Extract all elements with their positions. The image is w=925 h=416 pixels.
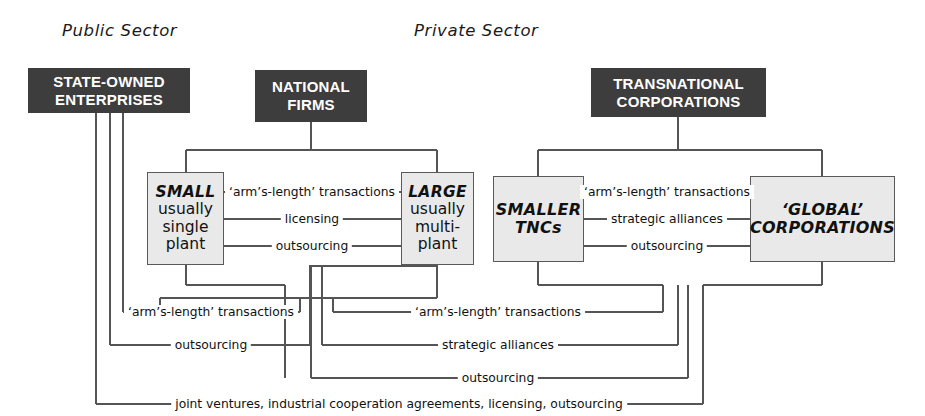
entity-box-large-firm[interactable]: LARGE usually multi- plant [401, 172, 474, 265]
sector-label-private: Private Sector [414, 21, 539, 40]
link-label-lower-left-outsourcing: outsourcing [171, 338, 251, 352]
link-label-small-large-arms-length: ‘arm’s-length’ transactions [225, 185, 399, 199]
link-label-tnc-global-strategic-alliances: strategic alliances [607, 212, 727, 226]
link-label-small-large-licensing: licensing [281, 212, 343, 226]
national-firms-line-2: FIRMS [272, 96, 350, 114]
small-firm-emphasis: SMALL [156, 184, 216, 201]
link-label-tnc-global-outsourcing: outsourcing [627, 239, 707, 253]
header-box-state-owned-enterprises[interactable]: STATE-OWNED ENTERPRISES [28, 68, 190, 113]
small-firm-line-3: plant [166, 236, 206, 253]
link-label-lower-right-strategic-alliances: strategic alliances [438, 338, 558, 352]
entity-box-small-firm[interactable]: SMALL usually single plant [147, 172, 224, 265]
diagram-canvas: Public Sector Private Sector STATE-OWNED… [0, 0, 925, 416]
smaller-tncs-line-1: SMALLER [496, 201, 582, 219]
state-owned-enterprises-line-2: ENTERPRISES [53, 91, 165, 109]
header-box-transnational-corporations[interactable]: TRANSNATIONAL CORPORATIONS [591, 68, 766, 117]
entity-box-global-corporations[interactable]: ‘GLOBAL’ CORPORATIONS [750, 176, 895, 262]
header-box-national-firms[interactable]: NATIONAL FIRMS [255, 70, 367, 122]
state-owned-enterprises-line-1: STATE-OWNED [53, 73, 165, 91]
large-firm-emphasis: LARGE [408, 184, 467, 201]
transnational-corporations-line-2: CORPORATIONS [613, 93, 744, 111]
link-label-lower-right-arms-length: ‘arm’s-length’ transactions [411, 305, 585, 319]
smaller-tncs-line-2: TNCs [515, 219, 562, 237]
large-firm-line-2: multi- [415, 219, 460, 236]
large-firm-line-1: usually [410, 201, 465, 218]
transnational-corporations-line-1: TRANSNATIONAL [613, 75, 744, 93]
global-corporations-line-1: ‘GLOBAL’ [782, 201, 864, 219]
small-firm-line-2: single [163, 219, 209, 236]
entity-box-smaller-tncs[interactable]: SMALLER TNCs [493, 176, 584, 262]
large-firm-line-3: plant [418, 236, 458, 253]
link-label-tnc-global-arms-length: ‘arm’s-length’ transactions [580, 185, 754, 199]
link-label-small-large-outsourcing: outsourcing [272, 239, 352, 253]
sector-label-public: Public Sector [62, 21, 177, 40]
link-label-bottom-joint-ventures: joint ventures, industrial cooperation a… [171, 397, 627, 411]
national-firms-line-1: NATIONAL [272, 78, 350, 96]
small-firm-line-1: usually [158, 201, 213, 218]
link-label-lower-right-outsourcing: outsourcing [458, 371, 538, 385]
global-corporations-line-2: CORPORATIONS [750, 219, 895, 237]
link-label-lower-left-arms-length: ‘arm’s-length’ transactions [124, 305, 298, 319]
